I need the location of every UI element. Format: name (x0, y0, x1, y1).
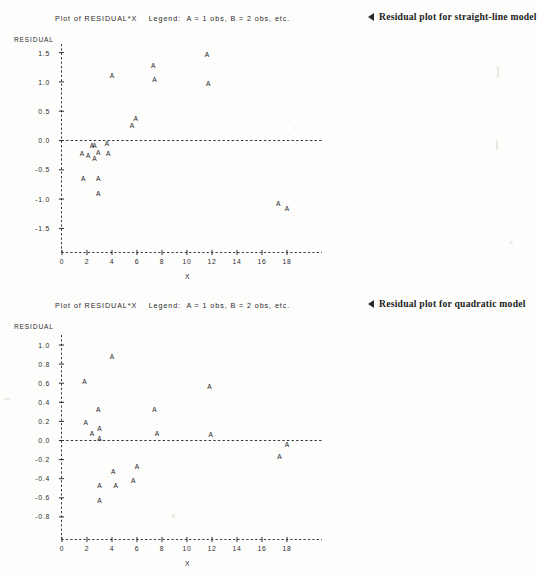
data-point-marker: A (205, 51, 210, 58)
chart-panel-quadratic: Plot of RESIDUAL*X Legend: A = 1 obs, B … (0, 287, 534, 574)
paper-speck (4, 398, 10, 400)
data-point-marker: A (97, 435, 102, 442)
data-point-marker: A (96, 175, 101, 182)
data-point-marker: A (135, 463, 140, 470)
data-point-marker: A (81, 175, 86, 182)
data-point-marker: A (106, 150, 111, 157)
data-point-marker: A (97, 425, 102, 432)
data-point-marker: A (209, 431, 214, 438)
data-point-marker: A (96, 149, 101, 156)
plot-canvas: AAAAAAAAAAAAAAAAAAAA (0, 0, 534, 287)
data-point-marker: A (105, 140, 110, 147)
data-point-marker: A (110, 72, 115, 79)
data-point-marker: A (151, 62, 156, 69)
data-point-marker: A (285, 205, 290, 212)
paper-speck (294, 127, 296, 129)
data-point-marker: A (90, 430, 95, 437)
data-point-marker: A (96, 406, 101, 413)
data-point-marker: A (207, 383, 212, 390)
data-point-marker: A (97, 497, 102, 504)
axes-area: RESIDUAL X 1.5 1.0 0.5 0.0 -0.5 -1.0 -1.… (0, 0, 534, 287)
data-point-marker: A (82, 378, 87, 385)
data-point-marker: A (155, 430, 160, 437)
paper-speck (510, 241, 513, 244)
data-point-marker: A (285, 441, 290, 448)
data-point-marker: A (96, 190, 101, 197)
data-point-marker: A (130, 122, 135, 129)
axes-area: RESIDUAL X 1.0 0.8 0.6 0.4 0.2 0.0 -0.2 … (0, 287, 534, 574)
data-point-marker: A (111, 468, 116, 475)
paper-speck (121, 47, 123, 49)
data-point-marker: A (277, 453, 282, 460)
data-point-marker: A (276, 200, 281, 207)
data-point-marker: A (80, 150, 85, 157)
data-point-marker: A (92, 142, 97, 149)
data-point-marker: A (114, 482, 119, 489)
data-point-marker: A (110, 353, 115, 360)
data-point-marker: A (131, 477, 136, 484)
data-point-marker: A (97, 482, 102, 489)
paper-speck (172, 514, 175, 518)
data-point-marker: A (86, 152, 91, 159)
plot-canvas: AAAAAAAAAAAAAAAAAAA (0, 287, 534, 574)
paper-speck (496, 140, 498, 150)
data-point-marker: A (152, 406, 157, 413)
data-point-marker: A (92, 155, 97, 162)
data-point-marker: A (134, 115, 139, 122)
data-point-marker: A (206, 80, 211, 87)
data-point-marker: A (84, 419, 89, 426)
chart-panel-straight-line: Plot of RESIDUAL*X Legend: A = 1 obs, B … (0, 0, 534, 287)
data-point-marker: A (152, 76, 157, 83)
paper-speck (497, 66, 499, 78)
